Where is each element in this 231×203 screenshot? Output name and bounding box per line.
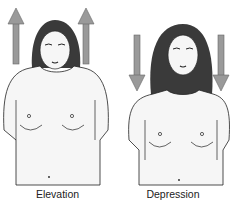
- depression-panel: Depression: [115, 0, 231, 203]
- depression-label: Depression: [115, 188, 231, 200]
- arrow-down-icon: [213, 35, 229, 91]
- arrow-up-icon: [8, 8, 24, 64]
- elevation-panel: Elevation: [0, 0, 115, 203]
- arrow-down-icon: [129, 35, 145, 91]
- arrow-up-icon: [78, 8, 94, 64]
- elevation-label: Elevation: [0, 188, 115, 200]
- depression-figure: [115, 0, 231, 190]
- elevation-figure: [0, 0, 115, 190]
